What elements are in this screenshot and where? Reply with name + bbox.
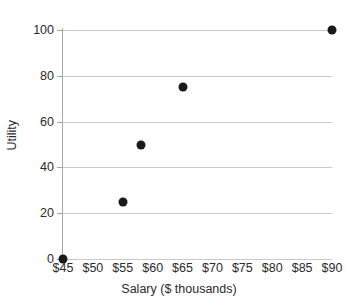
x-axis-tick-label: $45 xyxy=(53,262,74,275)
x-axis-title: Salary ($ thousands) xyxy=(0,283,358,296)
x-axis-tick-label: $85 xyxy=(292,262,313,275)
x-axis-tick-label: $90 xyxy=(322,262,343,275)
x-axis-tick-label: $55 xyxy=(112,262,133,275)
y-axis-tick-label: 60 xyxy=(40,116,54,129)
x-axis-tick-label: $50 xyxy=(82,262,103,275)
y-axis-title: Utility xyxy=(6,105,19,165)
data-point xyxy=(328,26,337,35)
gridline xyxy=(63,213,332,214)
data-point xyxy=(136,140,145,149)
data-point xyxy=(178,83,187,92)
gridline xyxy=(63,259,332,260)
y-axis-tick-label: 20 xyxy=(40,207,54,220)
y-axis-line xyxy=(62,28,63,261)
x-axis-tick-label: $65 xyxy=(172,262,193,275)
x-axis-tick-label: $80 xyxy=(262,262,283,275)
data-point xyxy=(118,197,127,206)
gridline xyxy=(63,30,332,31)
x-axis-tick-label: $70 xyxy=(202,262,223,275)
gridline xyxy=(63,76,332,77)
x-axis-tick-label: $60 xyxy=(142,262,163,275)
y-axis-tick-label: 40 xyxy=(40,161,54,174)
y-axis-tick-label: 100 xyxy=(33,24,54,37)
scatter-chart: 020406080100 $45$50$55$60$65$70$75$80$85… xyxy=(0,0,358,305)
y-axis-tick-label: 80 xyxy=(40,70,54,83)
x-axis-tick-label: $75 xyxy=(232,262,253,275)
gridline xyxy=(63,122,332,123)
gridline xyxy=(63,167,332,168)
